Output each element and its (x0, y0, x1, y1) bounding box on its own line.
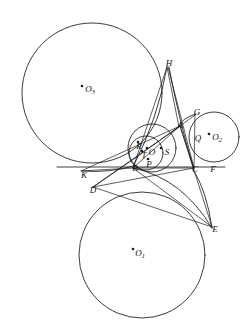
label-circle-O3: O3 (85, 85, 95, 95)
label-point-S: S (165, 148, 170, 157)
label-point-P: P (146, 160, 152, 169)
label-point-C: C (192, 165, 198, 174)
geometry-canvas (0, 0, 245, 330)
center-dot-O2 (208, 133, 211, 136)
label-point-H: H (166, 59, 173, 68)
label-point-F: F (210, 165, 216, 174)
label-point-K: K (81, 171, 87, 180)
center-dot-O3 (81, 85, 84, 88)
label-point-G: G (194, 108, 201, 117)
geometry-figure: O3 O2 O1 O H G A Q R T S P B C F K D E (0, 0, 245, 330)
line-E-B (133, 168, 212, 227)
label-circle-O: O (149, 148, 156, 157)
label-circle-O1: O1 (135, 249, 145, 259)
label-point-D: D (90, 186, 97, 195)
label-point-A: A (177, 121, 183, 130)
label-point-B: B (132, 164, 138, 173)
label-circle-O2: O2 (212, 133, 222, 143)
label-point-E: E (212, 225, 218, 234)
line-H-A (167, 67, 179, 127)
center-dot-S (160, 147, 163, 150)
label-point-Q: Q (195, 134, 202, 143)
center-dot-O1 (132, 248, 135, 251)
